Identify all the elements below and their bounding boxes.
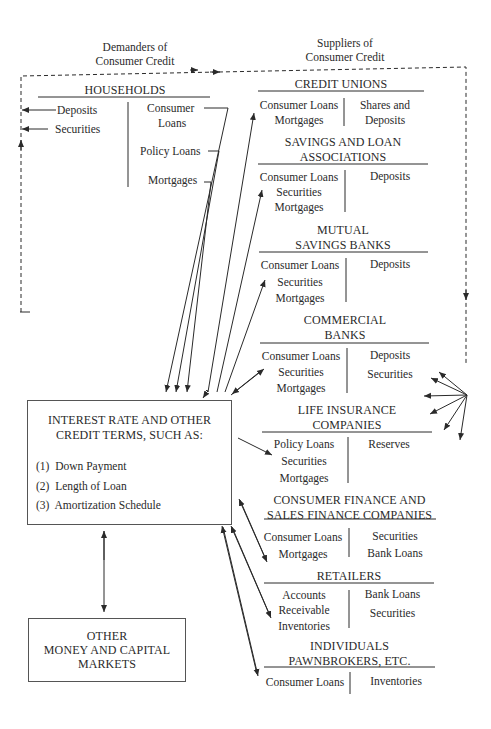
supplier-retailers-asset: Inventories bbox=[262, 619, 346, 633]
supplier-credit-unions-liability: Shares and bbox=[350, 98, 420, 112]
supplier-commercial-banks-liability: Securities bbox=[355, 367, 425, 381]
other-markets-line-2: MONEY AND CAPITAL bbox=[29, 643, 185, 657]
supplier-savings-loan-liability: Deposits bbox=[355, 169, 425, 183]
supplier-mutual-savings-asset: Mortgages bbox=[256, 291, 344, 305]
item-label: Down Payment bbox=[55, 460, 126, 472]
supplier-life-insurance-title: COMPANIES bbox=[262, 418, 432, 432]
demanders-heading: Demanders of Consumer Credit bbox=[80, 40, 190, 68]
households-asset-securities: Securities bbox=[55, 122, 100, 136]
supplier-commercial-banks-asset: Consumer Loans bbox=[257, 349, 345, 363]
supplier-mutual-savings-title: SAVINGS BANKS bbox=[258, 238, 428, 252]
supplier-commercial-banks-title: COMMERCIAL bbox=[260, 313, 430, 327]
item-number: (1) bbox=[36, 460, 49, 472]
credit-term-item-2: (2) Length of Loan bbox=[36, 479, 127, 493]
supplier-life-insurance-asset: Securities bbox=[262, 454, 346, 468]
supplier-credit-unions-asset: Mortgages bbox=[255, 113, 343, 127]
households-asset-deposits: Deposits bbox=[57, 103, 97, 117]
supplier-consumer-finance-asset: Consumer Loans bbox=[259, 530, 347, 544]
other-markets-line-3: MARKETS bbox=[29, 657, 185, 671]
supplier-retailers-title: RETAILERS bbox=[264, 569, 434, 583]
supplier-life-insurance-title: LIFE INSURANCE bbox=[262, 403, 432, 417]
credit-terms-title-2: CREDIT TERMS, SUCH AS: bbox=[28, 428, 231, 442]
credit-term-item-3: (3) Amortization Schedule bbox=[36, 498, 161, 512]
supplier-individuals-title: PAWNBROKERS, ETC. bbox=[264, 654, 435, 668]
supplier-consumer-finance-title: SALES FINANCE COMPANIES bbox=[262, 508, 437, 522]
households-title: HOUSEHOLDS bbox=[80, 83, 170, 97]
households-liability-consumer: Consumer bbox=[147, 101, 194, 115]
supplier-commercial-banks-asset: Mortgages bbox=[257, 381, 345, 395]
supplier-commercial-banks-liability: Deposits bbox=[355, 348, 425, 362]
households-liability-mortgages: Mortgages bbox=[148, 173, 197, 187]
credit-term-item-1: (1) Down Payment bbox=[36, 459, 126, 473]
supplier-consumer-finance-liability: Securities bbox=[355, 529, 435, 543]
supplier-individuals-asset: Consumer Loans bbox=[261, 675, 349, 689]
supplier-savings-loan-title: SAVINGS AND LOAN bbox=[258, 135, 428, 149]
credit-terms-title-1: INTEREST RATE AND OTHER bbox=[28, 413, 231, 427]
supplier-individuals-liability: Inventories bbox=[356, 674, 436, 688]
item-number: (3) bbox=[36, 499, 49, 511]
supplier-retailers-liability: Bank Loans bbox=[355, 587, 430, 601]
supplier-credit-unions-asset: Consumer Loans bbox=[255, 98, 343, 112]
supplier-credit-unions-title: CREDIT UNIONS bbox=[258, 77, 424, 91]
supplier-consumer-finance-title: CONSUMER FINANCE AND bbox=[262, 493, 437, 507]
supplier-consumer-finance-asset: Mortgages bbox=[259, 547, 347, 561]
supplier-individuals-title: INDIVIDUALS bbox=[264, 639, 435, 653]
supplier-mutual-savings-title: MUTUAL bbox=[258, 223, 428, 237]
supplier-savings-loan-asset: Securities bbox=[255, 185, 343, 199]
suppliers-heading: Suppliers of Consumer Credit bbox=[290, 36, 400, 64]
demanders-line-1: Demanders of bbox=[80, 40, 190, 54]
supplier-mutual-savings-liability: Deposits bbox=[355, 257, 425, 271]
supplier-savings-loan-asset: Mortgages bbox=[255, 200, 343, 214]
supplier-commercial-banks-title: BANKS bbox=[260, 328, 430, 342]
suppliers-line-2: Consumer Credit bbox=[290, 50, 400, 64]
supplier-commercial-banks-asset: Securities bbox=[257, 365, 345, 379]
supplier-retailers-asset: Accounts bbox=[262, 588, 346, 602]
supplier-mutual-savings-asset: Consumer Loans bbox=[256, 258, 344, 272]
other-markets-line-1: OTHER bbox=[29, 629, 185, 643]
supplier-life-insurance-asset: Policy Loans bbox=[262, 437, 346, 451]
supplier-mutual-savings-asset: Securities bbox=[256, 275, 344, 289]
other-markets-box: OTHER MONEY AND CAPITAL MARKETS bbox=[28, 618, 186, 682]
households-liability-policy-loans: Policy Loans bbox=[140, 144, 200, 158]
item-label: Amortization Schedule bbox=[55, 499, 161, 511]
supplier-retailers-asset: Receivable bbox=[262, 603, 346, 617]
supplier-retailers-liability: Securities bbox=[355, 606, 430, 620]
supplier-savings-loan-asset: Consumer Loans bbox=[255, 170, 343, 184]
supplier-life-insurance-liability: Reserves bbox=[354, 437, 424, 451]
item-number: (2) bbox=[36, 480, 49, 492]
households-liability-loans: Loans bbox=[158, 116, 186, 130]
suppliers-line-1: Suppliers of bbox=[290, 36, 400, 50]
supplier-savings-loan-title: ASSOCIATIONS bbox=[258, 150, 428, 164]
supplier-credit-unions-liability: Deposits bbox=[350, 113, 420, 127]
supplier-life-insurance-asset: Mortgages bbox=[262, 471, 346, 485]
credit-terms-box: INTEREST RATE AND OTHER CREDIT TERMS, SU… bbox=[27, 400, 232, 525]
demanders-line-2: Consumer Credit bbox=[80, 54, 190, 68]
supplier-consumer-finance-liability: Bank Loans bbox=[355, 546, 435, 560]
item-label: Length of Loan bbox=[55, 480, 127, 492]
